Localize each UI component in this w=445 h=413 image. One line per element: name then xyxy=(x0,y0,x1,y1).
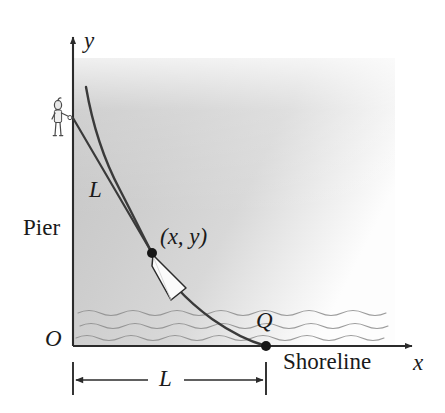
origin-label: O xyxy=(45,327,62,350)
point-q-label: Q xyxy=(256,309,273,332)
distance-label: L xyxy=(159,367,172,390)
boat-point-marker xyxy=(147,248,157,258)
q-point-marker xyxy=(261,341,271,351)
x-axis-label: x xyxy=(413,351,423,374)
tractrix-figure: y x O Q L L (x, y) Pier Shoreline xyxy=(0,0,445,413)
point-xy-label: (x, y) xyxy=(160,225,207,248)
y-axis-label: y xyxy=(84,29,94,52)
rope-length-label: L xyxy=(89,178,102,201)
shoreline-label: Shoreline xyxy=(283,350,371,373)
pier-label: Pier xyxy=(23,216,60,239)
person-figure xyxy=(52,98,72,136)
figure-canvas xyxy=(0,0,445,413)
